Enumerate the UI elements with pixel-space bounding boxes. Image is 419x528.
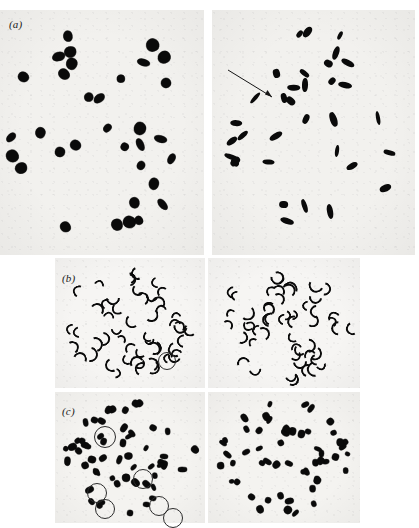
chromosome-mark	[331, 46, 341, 61]
chromosome-mark	[142, 330, 155, 343]
chromosome-mark	[74, 437, 81, 444]
chromosome-mark	[279, 308, 293, 322]
chromosome-mark	[135, 159, 146, 171]
chromosome-mark	[304, 428, 311, 435]
chromosome-mark	[300, 470, 306, 476]
chromosome-mark	[121, 272, 139, 290]
chromosome-mark	[299, 69, 310, 79]
chromosome-mark	[119, 439, 126, 447]
chromosome-mark	[378, 183, 392, 194]
chromosome-mark	[230, 119, 242, 126]
chromosome-mark	[340, 57, 355, 69]
chromosome-mark	[134, 137, 145, 151]
chromosome-mark	[92, 278, 105, 291]
chromosome-mark	[334, 144, 340, 157]
chromosome-mark	[161, 459, 169, 469]
chromosome-mark	[174, 332, 192, 350]
chromosome-mark	[265, 415, 273, 424]
chromosome-mark	[87, 455, 96, 463]
chromosome-mark	[336, 438, 343, 446]
chromosome-mark	[127, 428, 136, 437]
chromosome-mark	[156, 48, 173, 65]
chromosome-mark	[157, 461, 165, 467]
chromosome-mark	[302, 78, 308, 92]
chromosome-mark	[267, 400, 273, 407]
chromosome-mark	[102, 123, 113, 134]
chromosome-mark	[261, 303, 275, 317]
chromosome-mark	[262, 159, 274, 165]
chromosome-mark	[64, 457, 70, 466]
chromosome-mark	[229, 478, 235, 483]
chromosome-mark	[327, 76, 337, 86]
chromosome-mark	[83, 91, 95, 102]
chromosome-mark	[247, 362, 263, 378]
chromosome-mark	[154, 303, 169, 318]
chromosome-mark	[124, 313, 140, 329]
chromosome-mark	[287, 84, 300, 90]
chromosome-mark	[97, 416, 107, 425]
chromosome-mark	[319, 450, 324, 457]
chromosome-mark	[345, 451, 351, 457]
chromosome-mark	[122, 271, 137, 286]
chromosome-mark	[290, 352, 310, 372]
chromosome-mark	[344, 468, 349, 474]
chromosome-mark	[103, 288, 123, 308]
chromosome-mark	[82, 418, 88, 426]
chromosome-mark	[311, 500, 318, 507]
chromosome-mark	[268, 130, 283, 142]
chromosome-mark	[276, 312, 291, 327]
chromosome-mark	[259, 310, 279, 330]
chromosome-mark	[328, 112, 339, 128]
chromosome-mark	[62, 31, 73, 43]
chromosome-mark	[154, 134, 168, 144]
chromosome-mark	[286, 308, 300, 322]
chromosome-mark	[133, 290, 150, 307]
chromosome-mark	[316, 279, 335, 298]
circled-chromosome	[94, 426, 116, 448]
chromosome-mark	[4, 147, 21, 164]
chromosome-mark	[54, 146, 65, 157]
chromosome-mark	[375, 111, 382, 125]
circled-chromosome	[133, 469, 153, 489]
chromosome-mark	[281, 284, 296, 299]
chromosome-mark	[159, 454, 167, 459]
chromosome-mark	[223, 153, 238, 162]
chromosome-mark	[265, 285, 278, 298]
chromosome-mark	[285, 312, 303, 330]
chromosome-mark	[110, 475, 116, 482]
chromosome-mark	[268, 268, 287, 287]
chromosome-mark	[283, 504, 294, 515]
chromosome-mark	[116, 334, 127, 345]
chromosome-mark	[126, 510, 133, 517]
chromosome-mark	[230, 460, 236, 467]
chromosome-mark	[148, 423, 157, 432]
chromosome-mark	[122, 474, 131, 483]
chromosome-mark	[285, 95, 297, 107]
chromosome-mark	[71, 285, 86, 300]
chromosome-mark	[299, 336, 319, 356]
chromosome-mark	[340, 439, 349, 448]
plate-vignette	[0, 10, 204, 255]
chromosome-mark	[99, 297, 113, 311]
chromosome-mark	[302, 349, 317, 364]
chromosome-mark	[313, 475, 322, 484]
chromosome-mark	[255, 444, 263, 451]
chromosome-mark	[189, 445, 200, 456]
chromosome-mark	[71, 350, 90, 369]
chromosome-mark	[322, 59, 333, 70]
chromosome-mark	[56, 67, 72, 82]
metaphase-spread-b-left	[55, 258, 205, 388]
chromosome-mark	[235, 354, 253, 372]
chromosome-mark	[85, 335, 105, 355]
chromosome-mark	[255, 325, 273, 343]
chromosome-mark	[225, 309, 237, 321]
chromosome-mark	[78, 437, 86, 445]
chromosome-mark	[280, 427, 291, 438]
chromosome-mark	[67, 441, 78, 451]
chromosome-mark	[120, 141, 131, 152]
chromosome-mark	[144, 288, 161, 305]
chromosome-mark	[264, 496, 272, 503]
chromosome-mark	[65, 57, 79, 71]
chromosome-mark	[330, 429, 337, 436]
chromosome-mark	[262, 457, 272, 465]
